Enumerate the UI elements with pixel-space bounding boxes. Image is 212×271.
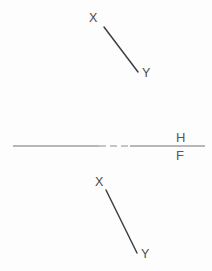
top-view-group: X Y — [89, 11, 151, 80]
top-view-line-segment — [104, 27, 138, 72]
descriptive-geometry-drawing: X Y H F X Y — [0, 0, 212, 271]
front-view-point-y-label: Y — [141, 247, 150, 261]
fold-line-label-f: F — [176, 148, 184, 163]
top-view-point-y-label: Y — [142, 66, 151, 80]
front-view-group: X Y — [95, 175, 150, 261]
front-view-point-x-label: X — [95, 175, 104, 189]
top-view-point-x-label: X — [89, 11, 98, 25]
drawing-svg: X Y H F X Y — [0, 0, 212, 271]
fold-line-group: H F — [13, 130, 205, 163]
front-view-line-segment — [106, 190, 137, 253]
fold-line-label-h: H — [176, 130, 185, 145]
